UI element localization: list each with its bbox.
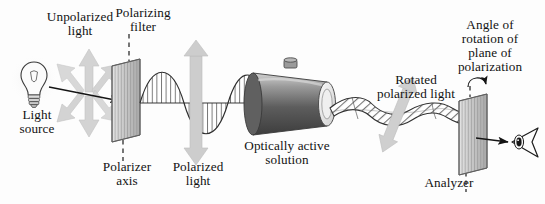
label-polarizing-filter: Polarizing filter xyxy=(100,6,186,34)
incident-beam-arrow xyxy=(49,87,120,101)
label-angle-of-rotation: Angle of rotation of plane of polarizati… xyxy=(438,18,542,75)
light-source-bulb xyxy=(7,53,61,107)
analyzer-plate xyxy=(459,94,487,175)
label-polarized-light: Polarized light xyxy=(159,160,237,188)
label-polarizer-axis: Polarizer axis xyxy=(89,160,165,188)
angle-rotation-curved-arrow xyxy=(468,78,486,87)
polarizing-filter-plate xyxy=(112,59,140,142)
polarization-plane-double-arrow xyxy=(184,40,208,165)
label-optically-active-solution: Optically active solution xyxy=(229,139,345,167)
label-analyzer: Analyzer xyxy=(412,176,486,190)
observer-eye xyxy=(512,128,538,157)
polarimetry-diagram: Unpolarized light Polarizing filter Ligh… xyxy=(0,0,545,204)
sample-tube xyxy=(244,58,336,135)
label-light-source: Light source xyxy=(6,108,68,136)
label-rotated-polarized-light: Rotated polarized light xyxy=(362,73,470,101)
